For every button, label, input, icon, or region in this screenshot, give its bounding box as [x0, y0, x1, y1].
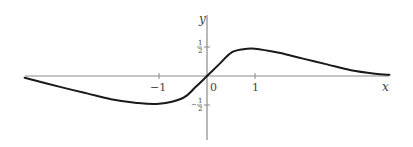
x-tick-label-neg-one: −1	[150, 81, 166, 94]
y-tick-label-neg-half: − 1 2	[191, 97, 202, 113]
svg-text:2: 2	[198, 47, 202, 55]
svg-text:−: −	[191, 101, 197, 109]
y-tick-label-half: 1 2	[197, 39, 202, 55]
x-axis-label: x	[382, 80, 389, 94]
svg-text:1: 1	[198, 39, 202, 47]
origin-label: 0	[210, 81, 217, 94]
svg-text:1: 1	[198, 97, 202, 105]
svg-text:2: 2	[198, 105, 202, 113]
function-plot: y x 0 −1 1 1 2 − 1 2	[0, 0, 413, 147]
x-tick-label-one: 1	[252, 81, 259, 94]
y-axis-label: y	[198, 12, 206, 26]
